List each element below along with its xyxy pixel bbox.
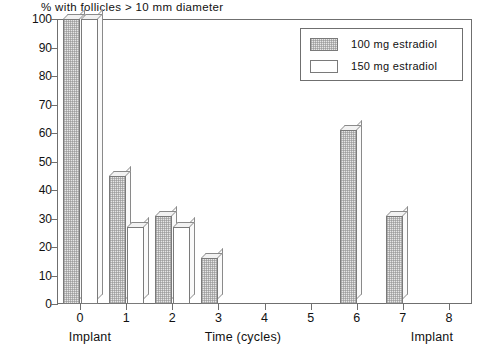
x-tick-mark [172,304,173,310]
bar [81,19,98,304]
legend-swatch-hatched-icon [310,38,338,51]
legend: 100 mg estradiol 150 mg estradiol [300,28,463,81]
x-tick-mark [126,304,127,310]
x-tick-mark [80,304,81,310]
x-axis-captions: Implant Time (cycles) Implant [0,330,482,350]
bar-front-face [127,227,144,304]
bar [386,216,403,304]
legend-swatch-plain-icon [310,60,338,73]
chart-title: % with follicles > 10 mm diameter [41,1,224,13]
x-tick-label: 8 [445,311,452,325]
x-tick-mark [311,304,312,310]
x-tick-label: 7 [399,311,406,325]
bar-side-face [144,217,149,299]
x-tick-label: 4 [261,311,268,325]
x-tick-mark [449,304,450,310]
bar [340,130,357,304]
bar-front-face [155,216,172,304]
bar-front-face [173,227,190,304]
x-tick-label: 6 [353,311,360,325]
bar [155,216,172,304]
y-axis-ticks [0,19,58,304]
legend-label-100mg: 100 mg estradiol [351,38,437,50]
bar [201,258,218,304]
x-tick-mark [357,304,358,310]
x-tick-label: 5 [307,311,314,325]
bar [109,176,126,304]
caption-implant-right: Implant [411,330,453,344]
bar-side-face [357,120,362,299]
chart-screenshot: % with follicles > 10 mm diameter 010203… [0,0,482,356]
x-tick-mark [403,304,404,310]
bar-front-face [386,216,403,304]
legend-entry-150mg: 150 mg estradiol [310,58,437,74]
caption-implant-left: Implant [69,330,111,344]
bar-front-face [63,19,80,304]
x-tick-label: 2 [169,311,176,325]
x-axis-title: Time (cycles) [205,330,281,344]
bar-side-face [98,9,103,299]
x-tick-mark [265,304,266,310]
x-tick-label: 3 [215,311,222,325]
bar [173,227,190,304]
legend-entry-100mg: 100 mg estradiol [310,36,437,52]
bar-front-face [81,19,98,304]
x-axis-labels: 012345678 [0,311,482,329]
bar-side-face [403,206,408,299]
bar-side-face [190,217,195,299]
legend-label-150mg: 150 mg estradiol [351,60,437,72]
x-tick-label: 1 [123,311,130,325]
x-tick-mark [218,304,219,310]
bar-front-face [201,258,218,304]
bar [127,227,144,304]
x-tick-label: 0 [77,311,84,325]
bar-front-face [340,130,357,304]
bar-front-face [109,176,126,304]
bar [63,19,80,304]
